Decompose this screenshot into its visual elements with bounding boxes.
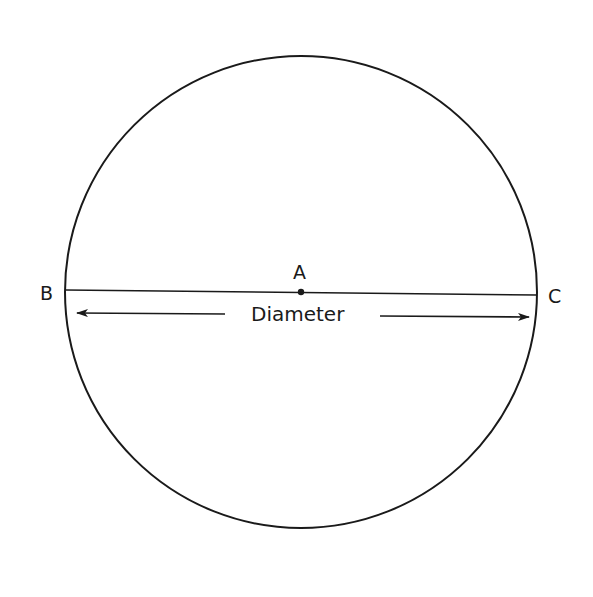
label-point-b: B: [40, 284, 53, 303]
diameter-label: Diameter: [251, 304, 344, 324]
center-point-a: [298, 289, 304, 295]
right-arrow: [380, 316, 529, 317]
label-point-c: C: [548, 287, 561, 306]
left-arrow: [77, 313, 225, 314]
circle-diameter-diagram: [0, 0, 593, 597]
label-point-a: A: [293, 263, 306, 282]
